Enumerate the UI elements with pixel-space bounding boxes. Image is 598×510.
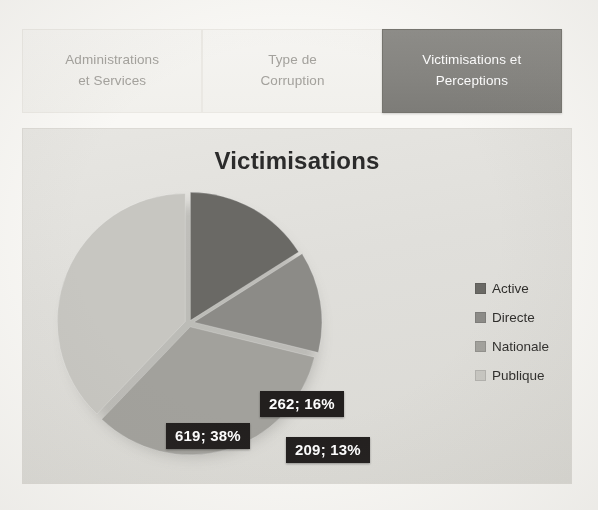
tab-label-line1: Victimisations et: [422, 50, 521, 71]
legend-label: Directe: [492, 310, 535, 325]
legend-swatch-icon: [475, 312, 486, 323]
chart-panel: Victimisations 262; 16% 209; 13% 545; 33…: [22, 128, 572, 484]
tab-label-line1: Type de: [268, 50, 317, 71]
legend-label: Nationale: [492, 339, 549, 354]
chart-title: Victimisations: [23, 147, 571, 175]
legend-label: Active: [492, 281, 529, 296]
legend-swatch-icon: [475, 370, 486, 381]
legend-label: Publique: [492, 368, 545, 383]
tab-label-line2: et Services: [78, 71, 146, 92]
legend-swatch-icon: [475, 283, 486, 294]
tab-type-de-corruption[interactable]: Type de Corruption: [202, 29, 381, 113]
tab-label-line2: Perceptions: [436, 71, 508, 92]
legend-item-directe[interactable]: Directe: [475, 303, 572, 332]
legend-swatch-icon: [475, 341, 486, 352]
tab-bar: Administrations et Services Type de Corr…: [22, 29, 562, 113]
legend-item-nationale[interactable]: Nationale: [475, 332, 572, 361]
pie-data-label-directe: 209; 13%: [286, 437, 370, 463]
legend-item-active[interactable]: Active: [475, 274, 572, 303]
legend-item-publique[interactable]: Publique: [475, 361, 572, 390]
tab-administrations-et-services[interactable]: Administrations et Services: [22, 29, 202, 113]
chart-legend: Active Directe Nationale Publique: [475, 274, 572, 390]
pie-data-label-active: 262; 16%: [260, 391, 344, 417]
pie-data-label-publique: 619; 38%: [166, 423, 250, 449]
tab-label-line2: Corruption: [260, 71, 324, 92]
tab-label-line1: Administrations: [65, 50, 159, 71]
tab-victimisations-et-perceptions[interactable]: Victimisations et Perceptions: [382, 29, 562, 113]
